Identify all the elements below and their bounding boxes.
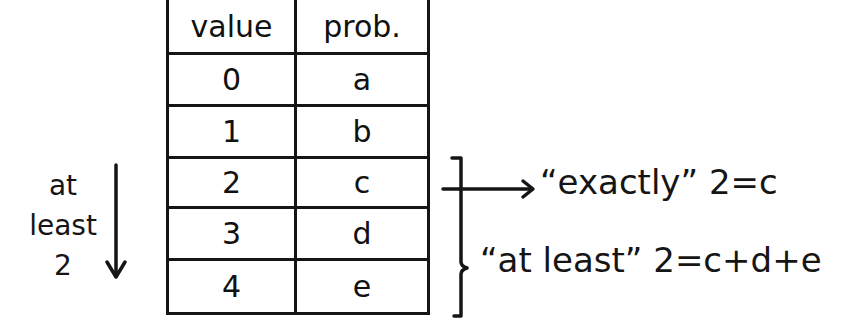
at-least-annotation: “at least” 2=c+d+e <box>480 240 822 280</box>
down-arrow-icon <box>107 165 125 277</box>
brace-icon <box>452 158 467 316</box>
exactly-annotation: “exactly” 2=c <box>540 162 778 202</box>
right-arrow-icon <box>443 181 533 197</box>
